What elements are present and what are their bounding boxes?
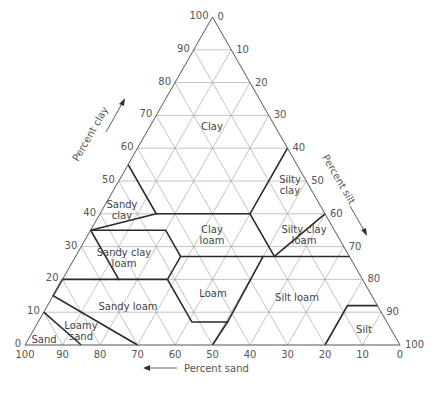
region-label-sandy-loam: Sandy loam [98, 301, 157, 312]
region-label-sandy-clay-loam: loam [112, 258, 137, 269]
svg-text:Percent silt: Percent silt [320, 153, 357, 207]
region-label-sandy-clay: Sandy [106, 199, 137, 210]
region-label-silty-clay-loam: Silty clay [281, 224, 326, 235]
sand-tick: 100 [15, 349, 34, 360]
sand-tick: 10 [356, 349, 369, 360]
region-label-silt-loam: Silt loam [275, 292, 319, 303]
svg-text:Percent clay: Percent clay [70, 104, 110, 163]
clay-tick: 80 [158, 76, 171, 87]
grid-lines [44, 50, 382, 345]
clay-tick: 70 [140, 108, 153, 119]
clay-tick: 60 [121, 141, 134, 152]
silt-tick: 70 [349, 241, 362, 252]
region-label-clay-loam: Clay [201, 224, 223, 235]
region-label-silty-clay: clay [280, 185, 300, 196]
clay-tick: 30 [65, 240, 78, 251]
silt-tick: 50 [311, 175, 324, 186]
region-label-silty-clay: Silty [279, 174, 301, 185]
sand-axis-title: Percent sand [143, 363, 249, 374]
region-label-loamy-sand: Loamy [64, 320, 97, 331]
ternary-plot: 0102030405060708090100010203040506070809… [0, 0, 438, 393]
sand-tick: 0 [397, 349, 403, 360]
clay-arrow-icon [119, 98, 125, 106]
sand-tick: 80 [94, 349, 107, 360]
silt-arrow-icon [361, 228, 367, 236]
silt-tick: 60 [330, 208, 343, 219]
silt-arrow-line [350, 206, 365, 232]
silt-tick: 80 [368, 273, 381, 284]
region-label-silty-clay-loam: loam [292, 235, 317, 246]
region-label-loamy-sand: sand [69, 331, 93, 342]
sand-tick: 20 [319, 349, 332, 360]
clay-tick: 90 [177, 43, 190, 54]
sand-arrow-icon [143, 365, 150, 371]
region-label-sandy-clay-loam: Sandy clay [97, 247, 152, 258]
svg-text:Percent sand: Percent sand [184, 363, 249, 374]
region-label-sand: Sand [31, 334, 56, 345]
sand-tick: 50 [206, 349, 219, 360]
silt-tick: 20 [255, 77, 268, 88]
clay-tick: 10 [27, 305, 40, 316]
clay-arrow-line [106, 102, 123, 132]
clay-tick: 100 [189, 10, 208, 21]
clay-tick: 40 [83, 207, 96, 218]
tick-labels: 0102030405060708090100010203040506070809… [15, 10, 424, 360]
region-label-clay-loam: loam [200, 235, 225, 246]
region-label-clay: Clay [201, 121, 223, 132]
sand-tick: 40 [244, 349, 257, 360]
silt-tick: 90 [386, 306, 399, 317]
clay-tick: 20 [46, 272, 59, 283]
silt-tick: 0 [218, 11, 224, 22]
region-label-sandy-clay: clay [112, 210, 132, 221]
clay-axis-title: Percent clay [70, 98, 125, 163]
soil-texture-triangle: 0102030405060708090100010203040506070809… [0, 0, 438, 393]
region-label-silt: Silt [356, 324, 372, 335]
silt-axis-title: Percent silt [320, 153, 367, 237]
sand-tick: 60 [169, 349, 182, 360]
sand-tick: 30 [281, 349, 294, 360]
silt-tick: 30 [274, 109, 287, 120]
clay-tick: 0 [15, 338, 21, 349]
silt-tick: 40 [293, 142, 306, 153]
sand-tick: 70 [131, 349, 144, 360]
silt-tick: 100 [405, 339, 424, 350]
sand-tick: 90 [56, 349, 69, 360]
clay-tick: 50 [102, 174, 115, 185]
region-label-loam: Loam [199, 288, 226, 299]
silt-tick: 10 [236, 44, 249, 55]
